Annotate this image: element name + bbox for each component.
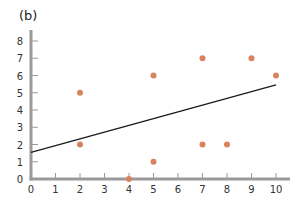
data-point: [249, 55, 255, 61]
fit-line: [31, 85, 276, 152]
y-tick-label: 5: [17, 88, 23, 99]
data-point: [126, 176, 132, 182]
data-point: [151, 159, 157, 165]
x-tick-label: 1: [52, 184, 58, 195]
data-point: [77, 90, 83, 96]
points-group: [77, 55, 279, 182]
axes: [30, 30, 291, 181]
y-tick-label: 8: [17, 36, 23, 47]
data-point: [200, 55, 206, 61]
y-tick-label: 3: [17, 122, 23, 133]
scatter-chart: 012345678910012345678: [0, 0, 305, 204]
x-tick-label: 6: [175, 184, 181, 195]
y-tick-label: 2: [17, 140, 23, 151]
x-tick-label: 0: [28, 184, 34, 195]
y-tick-label: 7: [17, 53, 23, 64]
ticks: 012345678910012345678: [17, 36, 283, 195]
data-point: [151, 73, 157, 79]
x-tick-label: 5: [150, 184, 156, 195]
data-point: [224, 142, 230, 148]
data-point: [77, 142, 83, 148]
y-tick-label: 4: [17, 105, 23, 116]
x-tick-label: 10: [270, 184, 283, 195]
x-tick-label: 9: [248, 184, 254, 195]
x-tick-label: 7: [199, 184, 205, 195]
y-tick-label: 6: [17, 71, 23, 82]
x-tick-label: 8: [224, 184, 230, 195]
y-tick-label: 0: [17, 174, 23, 185]
fit-line-group: [31, 85, 276, 152]
x-tick-label: 4: [126, 184, 132, 195]
y-tick-label: 1: [17, 157, 23, 168]
data-point: [200, 142, 206, 148]
data-point: [273, 73, 279, 79]
x-tick-label: 2: [77, 184, 83, 195]
x-tick-label: 3: [101, 184, 107, 195]
